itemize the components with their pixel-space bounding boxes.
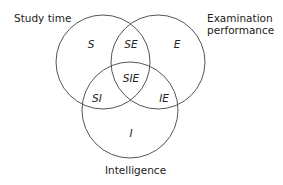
region-si: SI bbox=[92, 92, 102, 104]
region-se: SE bbox=[124, 38, 137, 50]
region-e: E bbox=[174, 38, 181, 50]
set-label-intelligence: Intelligence bbox=[105, 164, 166, 176]
set-label-examination-line2: performance bbox=[207, 24, 274, 36]
region-ie: IE bbox=[159, 92, 169, 104]
region-sie: SIE bbox=[123, 72, 139, 84]
set-label-study-time: Study time bbox=[14, 12, 71, 24]
region-i: I bbox=[129, 127, 132, 139]
region-s: S bbox=[88, 38, 95, 50]
set-label-examination-line1: Examination bbox=[207, 12, 273, 24]
